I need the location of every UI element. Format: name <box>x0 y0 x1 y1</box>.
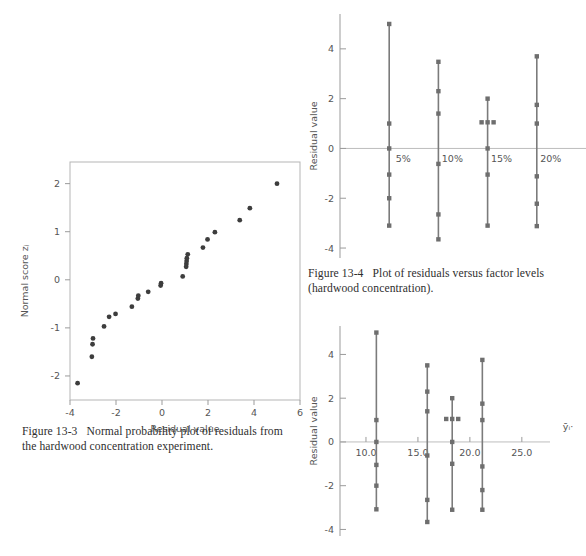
data-point <box>485 146 489 150</box>
data-point <box>425 498 429 502</box>
data-point <box>107 314 112 319</box>
data-point <box>387 223 391 227</box>
means-svg: -4-202410.015.020.025.0Residual valueȳᵢ· <box>305 318 586 556</box>
y-tick-label: 2 <box>328 93 334 104</box>
data-point <box>485 172 489 176</box>
x-tick-label: 6 <box>297 407 303 418</box>
data-point <box>387 146 391 150</box>
x-axis-title: ȳᵢ· <box>563 421 573 432</box>
data-point <box>136 293 141 298</box>
category-label: 15% <box>491 153 512 164</box>
category-label: 20% <box>540 153 561 164</box>
data-point <box>436 212 440 216</box>
data-point <box>275 181 280 186</box>
figure-residuals-vs-factor-levels: -4-2024Residual value5%10%15%20% <box>305 0 586 300</box>
data-point <box>535 174 539 178</box>
data-point <box>91 336 96 341</box>
y-tick-label: 0 <box>54 274 60 285</box>
data-point <box>90 342 95 347</box>
data-point <box>436 111 440 115</box>
data-point <box>535 121 539 125</box>
data-point <box>247 206 252 211</box>
data-point <box>535 202 539 206</box>
y-tick-label: 0 <box>328 436 334 447</box>
plot-frame <box>70 162 300 400</box>
data-point <box>374 440 378 444</box>
data-point <box>450 396 454 400</box>
data-point <box>535 224 539 228</box>
y-tick-label: 4 <box>328 43 334 54</box>
y-tick-label: -2 <box>325 480 334 491</box>
data-point <box>450 462 454 466</box>
y-tick-label: -2 <box>51 370 60 381</box>
x-tick-label: -4 <box>65 407 74 418</box>
data-point <box>425 389 429 393</box>
residuals-vs-fitted-values-canvas: -4-202410.015.020.025.0Residual valueȳᵢ· <box>305 318 586 556</box>
figure-residuals-vs-fitted-values: -4-202410.015.020.025.0Residual valueȳᵢ· <box>305 318 586 556</box>
data-point <box>374 330 378 334</box>
x-tick-label: 0 <box>159 407 165 418</box>
data-point <box>425 363 429 367</box>
data-point <box>485 223 489 227</box>
x-tick-label: 25.0 <box>511 447 532 458</box>
figure-page: -4-20246-2-1012Residual valueNormal scor… <box>0 0 586 556</box>
data-point <box>213 230 218 235</box>
caption-figure-13-3: Figure 13-3Normal probability plot of re… <box>22 424 297 454</box>
residuals-vs-factor-levels-canvas: -4-2024Residual value5%10%15%20% <box>305 0 586 300</box>
data-point <box>436 162 440 166</box>
x-tick-label: 10.0 <box>355 447 376 458</box>
data-point <box>180 274 185 279</box>
data-point <box>425 453 429 457</box>
data-point <box>436 237 440 241</box>
data-point <box>129 304 134 309</box>
normal-probability-plot-canvas: -4-20246-2-1012Residual valueNormal scor… <box>8 150 308 440</box>
y-axis-title: Residual value <box>308 101 319 170</box>
data-point <box>436 89 440 93</box>
data-point <box>374 483 378 487</box>
figure-normal-probability-plot: -4-20246-2-1012Residual valueNormal scor… <box>8 150 308 440</box>
x-tick-label: -2 <box>111 407 120 418</box>
data-point <box>480 488 484 492</box>
x-tick-label: 4 <box>251 407 257 418</box>
data-point <box>75 381 80 386</box>
data-point <box>159 281 164 286</box>
data-point <box>491 120 495 124</box>
caption-figure-number: Figure 13-3 <box>22 425 78 438</box>
data-point <box>374 507 378 511</box>
data-point <box>480 358 484 362</box>
y-tick-label: -4 <box>325 243 334 254</box>
data-point <box>387 121 391 125</box>
data-point <box>444 417 448 421</box>
y-tick-label: 2 <box>328 393 334 404</box>
data-point <box>425 409 429 413</box>
caption-figure-number: Figure 13-4 <box>308 267 364 280</box>
data-point <box>89 354 94 359</box>
data-point <box>102 324 107 329</box>
data-point <box>456 417 460 421</box>
data-point <box>480 418 484 422</box>
data-point <box>480 508 484 512</box>
y-tick-label: 4 <box>328 349 334 360</box>
data-point <box>450 508 454 512</box>
x-tick-label: 20.0 <box>459 447 480 458</box>
y-tick-label: -2 <box>325 193 334 204</box>
caption-figure-13-4: Figure 13-4Plot of residuals versus fact… <box>308 266 586 296</box>
data-point <box>485 96 489 100</box>
y-tick-label: -4 <box>325 524 334 535</box>
data-point <box>185 252 190 257</box>
y-tick-label: 0 <box>328 143 334 154</box>
levels-svg: -4-2024Residual value5%10%15%20% <box>305 0 586 300</box>
data-point <box>374 463 378 467</box>
data-point <box>113 312 118 317</box>
category-label: 5% <box>396 153 411 164</box>
data-point <box>387 22 391 26</box>
y-axis-title: Residual value <box>308 396 319 465</box>
y-tick-label: 1 <box>54 226 60 237</box>
data-point <box>201 245 206 250</box>
data-point <box>479 120 483 124</box>
data-point <box>480 464 484 468</box>
y-tick-label: 2 <box>54 178 60 189</box>
y-tick-label: -1 <box>51 322 60 333</box>
data-point <box>436 60 440 64</box>
data-point <box>485 120 489 124</box>
